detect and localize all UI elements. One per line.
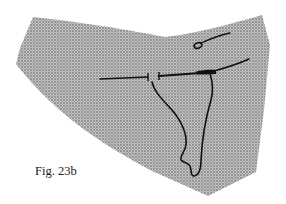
figure-caption: Fig. 23b	[35, 164, 77, 179]
